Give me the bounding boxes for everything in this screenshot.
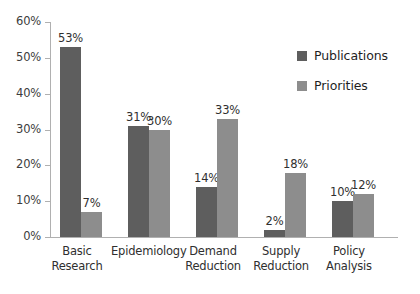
bar-value-label: 30% [147, 114, 172, 128]
y-axis-tick-label: 20% [16, 157, 41, 171]
bar-value-label: 33% [215, 103, 240, 117]
x-axis-category-label: Epidemiology [111, 244, 179, 259]
chart-legend: PublicationsPriorities [297, 48, 388, 108]
bar-value-label: 12% [351, 178, 376, 192]
y-axis-tick-label: 10% [16, 193, 41, 207]
y-axis-tick-label: 0% [23, 229, 41, 243]
y-axis-tick-label: 60% [16, 14, 41, 28]
category-label-line: Analysis [315, 259, 383, 274]
bar-priorities[interactable]: 12% [353, 194, 374, 237]
bar-chart: 0%10%20%30%40%50%60% 53%7%31%30%14%33%2%… [0, 0, 420, 294]
x-axis-category-label: DemandReduction [179, 244, 247, 274]
bar-priorities[interactable]: 7% [81, 212, 102, 237]
x-axis-category-label: PolicyAnalysis [315, 244, 383, 274]
bar-value-label: 2% [266, 214, 284, 228]
y-axis-tick-mark [45, 237, 50, 238]
bar-priorities[interactable]: 30% [149, 130, 170, 238]
bar-value-label: 18% [283, 157, 308, 171]
category-label-line: Demand [179, 244, 247, 259]
category-label-line: Reduction [247, 259, 315, 274]
category-label-line: Reduction [179, 259, 247, 274]
bar-group: 53%7% [52, 22, 120, 237]
bar-publications[interactable]: 31% [128, 126, 149, 237]
bar-priorities[interactable]: 18% [285, 173, 306, 238]
y-axis-tick-label: 30% [16, 122, 41, 136]
x-axis-category-label: BasicResearch [43, 244, 111, 274]
legend-swatch-icon [297, 51, 307, 61]
category-label-line: Policy [315, 244, 383, 259]
legend-label: Priorities [314, 78, 368, 93]
bar-publications[interactable]: 10% [332, 201, 353, 237]
bar-value-label: 53% [58, 31, 83, 45]
category-label-line: Supply [247, 244, 315, 259]
x-axis-line [50, 237, 398, 238]
bar-priorities[interactable]: 33% [217, 119, 238, 237]
bar-publications[interactable]: 2% [264, 230, 285, 237]
legend-item[interactable]: Priorities [297, 78, 388, 93]
legend-item[interactable]: Publications [297, 48, 388, 63]
y-axis-tick-label: 50% [16, 50, 41, 64]
bar-publications[interactable]: 14% [196, 187, 217, 237]
bar-value-label: 7% [83, 196, 101, 210]
bar-group: 31%30% [120, 22, 188, 237]
legend-swatch-icon [297, 81, 307, 91]
x-axis-category-label: SupplyReduction [247, 244, 315, 274]
bar-publications[interactable]: 53% [60, 47, 81, 237]
bar-group: 14%33% [188, 22, 256, 237]
category-label-line: Research [43, 259, 111, 274]
category-label-line: Basic [43, 244, 111, 259]
category-label-line: Epidemiology [111, 244, 179, 259]
y-axis-tick-label: 40% [16, 86, 41, 100]
legend-label: Publications [314, 48, 388, 63]
bar-value-label: 14% [194, 171, 219, 185]
